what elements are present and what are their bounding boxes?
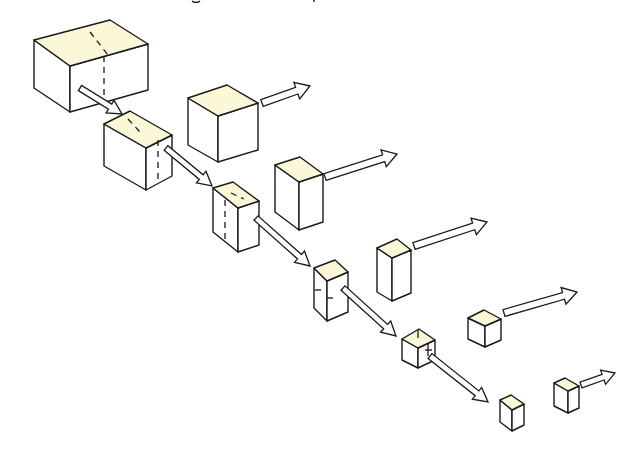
removed-piece-piece-5: removed half 5 bbox=[554, 378, 579, 413]
removed-piece-piece-1: removed half 1 bbox=[188, 85, 258, 162]
arrow-out-1-icon bbox=[261, 82, 310, 106]
box-front-face bbox=[392, 250, 411, 301]
removed-piece-piece-4: removed half 4 bbox=[468, 310, 501, 347]
removed-piece-piece-2: removed half 2 bbox=[275, 157, 323, 230]
box-front-face bbox=[238, 201, 259, 252]
arrow-chain-5-icon bbox=[428, 354, 488, 402]
arrow-out-5-icon bbox=[580, 370, 615, 388]
chain-box-box-5: half 4 bbox=[402, 329, 435, 368]
halving-diagram: removed half 1removed half 2removed half… bbox=[0, 0, 636, 450]
removed-piece-piece-3: removed half 3 bbox=[377, 239, 411, 301]
chain-box-box-2: half 1 bbox=[104, 111, 172, 190]
chain-box-box-6: half 5 bbox=[500, 395, 524, 431]
box-front-face bbox=[299, 174, 323, 230]
arrow-out-3-icon bbox=[413, 218, 487, 249]
diagram-canvas: removed half 1removed half 2removed half… bbox=[0, 0, 636, 450]
arrow-out-2-icon bbox=[324, 150, 397, 180]
arrow-out-4-icon bbox=[503, 288, 577, 317]
chain-box-box-3: half 2 bbox=[213, 182, 259, 252]
